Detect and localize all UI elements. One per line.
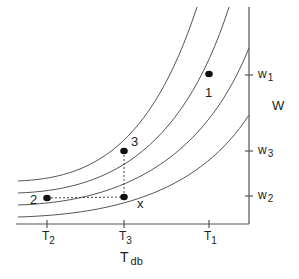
dashed-line-2-to-x xyxy=(47,197,124,198)
psychrometric-diagram: 1 3 2 x T2 T3 T1 Tdb w1 w3 w2 W xyxy=(0,0,299,279)
curves xyxy=(18,7,249,217)
curve-3 xyxy=(18,48,249,205)
x-tick-label-t2: T2 xyxy=(42,229,55,246)
process-lines xyxy=(47,151,124,198)
point-3-label: 3 xyxy=(131,134,138,149)
y-axis-title: W xyxy=(272,98,285,113)
point-x-label: x xyxy=(137,196,144,211)
x-axis-title: Tdb xyxy=(120,249,143,267)
point-1-label: 1 xyxy=(205,85,212,100)
point-x xyxy=(120,194,128,201)
point-3 xyxy=(120,148,128,155)
curve-1 xyxy=(18,7,197,181)
y-tick-label-w1: w1 xyxy=(257,67,274,83)
x-tick-label-t1: T1 xyxy=(204,229,217,246)
y-tick-label-w3: w3 xyxy=(257,143,274,159)
curve-2 xyxy=(18,7,229,193)
point-2 xyxy=(43,195,51,202)
x-tick-label-t3: T3 xyxy=(119,229,132,246)
y-tick-label-w2: w2 xyxy=(257,188,274,204)
point-2-label: 2 xyxy=(30,192,37,207)
point-1 xyxy=(205,71,213,78)
